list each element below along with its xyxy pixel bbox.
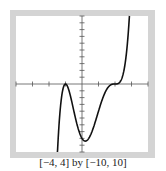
function-graph: [0, 0, 166, 171]
window-caption: [−4, 4] by [−10, 10]: [0, 155, 166, 169]
